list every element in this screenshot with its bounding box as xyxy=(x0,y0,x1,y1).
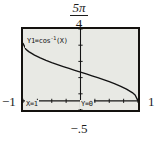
fraction-5pi-over-4: 5π 4 xyxy=(70,1,87,30)
equation-prefix: Y1=cos xyxy=(27,37,51,45)
fraction-numerator: 5π xyxy=(70,1,87,14)
graphing-calculator-figure: 5π 4 −1 1 −.5 Y1=cos-1(X) X=1 Y=0 xyxy=(0,0,158,141)
trace-y-readout: Y=0 xyxy=(80,100,94,109)
calculator-screen[interactable]: Y1=cos-1(X) X=1 Y=0 xyxy=(21,27,140,112)
y-axis-min-label: −.5 xyxy=(0,122,158,135)
x-axis-max-label: 1 xyxy=(148,95,155,108)
trace-x-readout: X=1 xyxy=(25,100,39,109)
y-axis-max-label: 5π 4 xyxy=(0,1,158,30)
x-axis-min-label: −1 xyxy=(2,95,16,108)
equation-label: Y1=cos-1(X) xyxy=(25,32,70,48)
equation-suffix: (X) xyxy=(56,37,68,45)
